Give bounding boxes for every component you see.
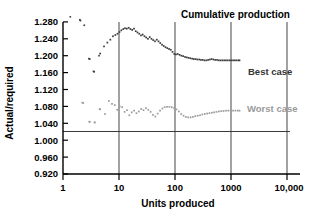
data-point: [209, 112, 211, 114]
data-point: [124, 111, 126, 113]
data-point: [126, 28, 128, 30]
y-tick-label: 1.240: [34, 33, 58, 44]
data-point: [109, 39, 111, 41]
data-point: [130, 28, 132, 30]
data-point: [216, 111, 218, 113]
x-axis-title: Units produced: [141, 198, 214, 209]
data-point: [211, 112, 213, 114]
y-tick-label: 1.000: [34, 135, 58, 146]
data-point: [194, 115, 196, 117]
x-tick-label: 10,000: [274, 182, 303, 193]
data-point: [137, 32, 139, 34]
data-point: [107, 42, 109, 44]
legend-label-best-case: Best case: [248, 66, 292, 77]
data-point: [206, 60, 208, 62]
data-point: [184, 56, 186, 58]
data-point: [232, 110, 234, 112]
data-point: [154, 116, 156, 118]
data-point: [223, 60, 225, 62]
data-point: [187, 117, 189, 119]
data-point: [99, 53, 101, 55]
data-point: [230, 60, 232, 62]
data-point: [163, 45, 165, 47]
data-point: [169, 106, 171, 108]
data-point: [190, 117, 192, 119]
data-point: [120, 30, 122, 32]
data-point: [172, 51, 174, 53]
data-point: [114, 104, 116, 106]
y-tick-label: 1.280: [34, 16, 58, 27]
data-point: [234, 60, 236, 62]
data-point: [204, 113, 206, 115]
data-point: [128, 27, 130, 29]
data-point: [206, 113, 208, 115]
data-point: [213, 111, 215, 113]
data-point: [200, 59, 202, 61]
data-point: [117, 33, 119, 35]
data-point: [104, 113, 106, 115]
data-point: [103, 46, 105, 48]
data-point: [89, 121, 91, 123]
data-point: [239, 60, 241, 62]
data-point: [214, 59, 216, 61]
data-point: [179, 54, 181, 56]
data-point: [173, 53, 175, 55]
data-point: [181, 55, 183, 57]
data-point: [83, 24, 85, 26]
cumulative-production-chart: 0.920 0.960 1.000 1.040 1.080 1.120 1.16…: [0, 0, 327, 213]
data-point: [170, 49, 172, 51]
data-point: [197, 115, 199, 117]
x-tick-label: 1000: [220, 182, 241, 193]
data-point: [152, 114, 154, 116]
data-point: [192, 116, 194, 118]
chart-page: 0.920 0.960 1.000 1.040 1.080 1.120 1.16…: [0, 0, 327, 213]
data-point: [135, 30, 137, 32]
data-point: [94, 122, 96, 124]
data-point: [227, 110, 229, 112]
data-point: [111, 103, 113, 105]
data-point: [185, 116, 187, 118]
data-point: [220, 60, 222, 62]
data-point: [88, 58, 90, 60]
data-point: [158, 40, 160, 42]
data-point: [128, 114, 130, 116]
data-point: [147, 38, 149, 40]
data-point: [173, 107, 175, 109]
data-point: [209, 59, 211, 61]
data-point: [116, 109, 118, 111]
y-tick-label: 1.200: [34, 50, 58, 61]
data-point: [232, 60, 234, 62]
data-point: [180, 113, 182, 115]
data-point: [175, 54, 177, 56]
data-point: [145, 37, 147, 39]
data-point: [202, 114, 204, 116]
data-point: [80, 20, 82, 22]
data-point: [188, 57, 190, 59]
data-point: [140, 35, 142, 37]
data-point: [161, 44, 163, 46]
data-point: [189, 57, 191, 59]
data-point: [150, 111, 152, 113]
y-tick-label: 1.160: [34, 67, 58, 78]
data-point: [193, 58, 195, 60]
data-point: [112, 35, 114, 37]
x-tick-label: 1: [60, 182, 66, 193]
data-point: [114, 34, 116, 36]
data-point: [119, 31, 121, 33]
data-point: [220, 110, 222, 112]
data-point: [162, 108, 164, 110]
data-point: [156, 39, 158, 41]
data-point: [151, 38, 153, 40]
data-point: [99, 108, 101, 110]
data-point: [121, 106, 123, 108]
data-point: [204, 60, 206, 62]
data-point: [166, 47, 168, 49]
y-axis-title: Actual/required: [4, 66, 15, 139]
y-tick-label: 0.920: [34, 168, 58, 179]
data-point: [166, 106, 168, 108]
y-tick-label: 1.040: [34, 118, 58, 129]
data-point: [168, 48, 170, 50]
data-point: [159, 42, 161, 44]
data-point: [70, 16, 72, 18]
data-point: [164, 106, 166, 108]
